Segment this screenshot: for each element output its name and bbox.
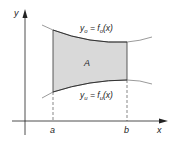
- area-between-curves-diagram: y x a b A yo = fo(x) yu = fu(x): [0, 0, 175, 143]
- point-a-label: a: [50, 125, 55, 135]
- upper-curve-label: yo = fo(x): [79, 23, 113, 34]
- y-axis-label: y: [13, 8, 19, 18]
- y-axis-arrow-icon: [23, 9, 28, 18]
- area-label: A: [83, 58, 90, 68]
- point-b-label: b: [124, 125, 129, 135]
- x-axis-label: x: [156, 125, 162, 135]
- lower-curve-label: yu = fu(x): [79, 90, 113, 101]
- x-axis-arrow-icon: [159, 119, 168, 124]
